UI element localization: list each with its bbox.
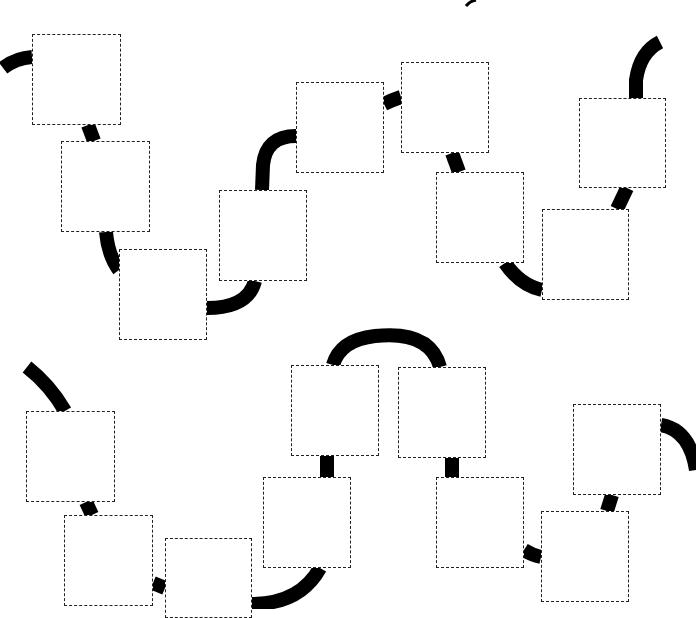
answer-box-t5[interactable] bbox=[296, 82, 384, 173]
path-segment bbox=[505, 263, 542, 290]
answer-box-b4[interactable] bbox=[263, 477, 351, 568]
path-segment bbox=[27, 367, 65, 411]
path-segment bbox=[617, 188, 627, 209]
path-segment bbox=[86, 502, 92, 515]
path-segment bbox=[524, 550, 541, 557]
path-segment bbox=[207, 281, 255, 308]
answer-box-t1[interactable] bbox=[32, 34, 121, 125]
answer-box-b7[interactable] bbox=[436, 477, 524, 568]
answer-box-b5[interactable] bbox=[291, 365, 379, 456]
path-segment bbox=[384, 97, 401, 104]
answer-box-b9[interactable] bbox=[573, 404, 661, 495]
path-segment bbox=[88, 125, 94, 141]
path-segment bbox=[3, 57, 32, 68]
path-segment bbox=[452, 153, 459, 172]
path-segment bbox=[661, 425, 696, 470]
path-segment bbox=[252, 568, 320, 604]
answer-box-t6[interactable] bbox=[401, 62, 489, 153]
answer-box-t9[interactable] bbox=[579, 98, 666, 188]
answer-box-b8[interactable] bbox=[541, 511, 629, 602]
answer-box-b2[interactable] bbox=[64, 515, 153, 606]
answer-box-b6[interactable] bbox=[398, 367, 486, 458]
path-segment bbox=[607, 495, 612, 511]
answer-box-b1[interactable] bbox=[26, 411, 115, 502]
path-segment bbox=[636, 42, 660, 98]
path-segment bbox=[333, 335, 440, 367]
answer-box-t7[interactable] bbox=[436, 172, 524, 263]
answer-box-b3[interactable] bbox=[165, 538, 252, 618]
answer-box-t3[interactable] bbox=[119, 249, 207, 340]
path-segment bbox=[153, 583, 165, 588]
answer-box-t2[interactable] bbox=[61, 141, 150, 232]
stray-mark bbox=[466, 0, 476, 6]
answer-box-t4[interactable] bbox=[219, 190, 307, 281]
answer-box-t8[interactable] bbox=[542, 209, 629, 300]
path-segment bbox=[262, 136, 296, 190]
path-segment bbox=[106, 232, 119, 270]
